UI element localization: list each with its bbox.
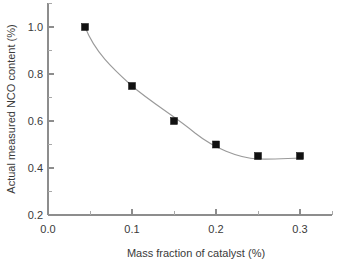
- data-series-markers: [82, 24, 304, 160]
- data-point-marker: [213, 141, 220, 148]
- x-tick-label-4: 0.3: [292, 223, 307, 235]
- data-series-curve: [85, 27, 300, 159]
- data-point-marker: [255, 153, 262, 160]
- data-point-marker: [297, 153, 304, 160]
- data-point-marker: [171, 118, 178, 125]
- y-tick-label-2: 0.8: [28, 68, 43, 80]
- x-tick-label-1: 0.0: [40, 223, 55, 235]
- y-tick-label-1: 1.0: [28, 21, 43, 33]
- x-axis-title: Mass fraction of catalyst (%): [127, 247, 265, 259]
- x-tick-label-3: 0.2: [208, 223, 223, 235]
- y-tick-label-4: 0.4: [28, 162, 43, 174]
- x-axis-minor-ticks: [90, 211, 332, 215]
- data-point-marker: [82, 24, 89, 31]
- x-tick-label-2: 0.1: [124, 223, 139, 235]
- y-axis-major-ticks: [48, 27, 54, 215]
- y-axis-minor-ticks: [48, 4, 52, 192]
- y-tick-label-5: 0.2: [28, 209, 43, 221]
- chart-figure: 1.0 0.8 0.6 0.4 0.2 0.0 0.1 0.2 0.3 Mass…: [0, 0, 340, 269]
- y-tick-label-3: 0.6: [28, 115, 43, 127]
- data-point-marker: [129, 83, 136, 90]
- y-axis-title: Actual measured NCO content (%): [5, 24, 17, 193]
- chart-plot-area: 1.0 0.8 0.6 0.4 0.2 0.0 0.1 0.2 0.3 Mass…: [0, 0, 340, 269]
